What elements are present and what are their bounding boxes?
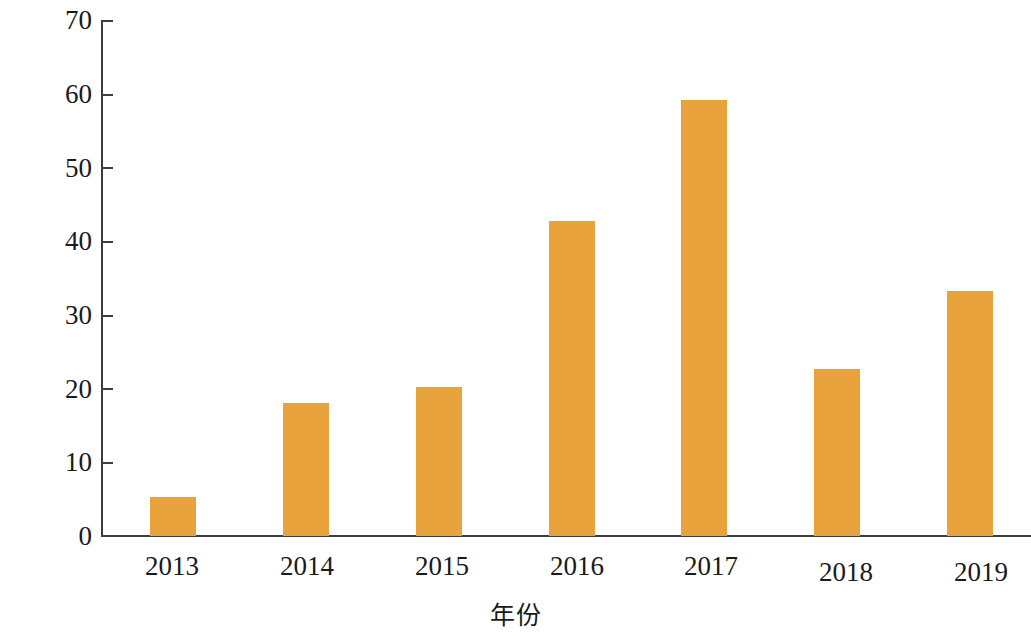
bar-2015 — [416, 387, 462, 536]
bar-chart: 比值（%） 0 10 20 30 40 50 60 70 2013 2014 2… — [0, 0, 1031, 638]
x-tick-label-2016: 2016 — [517, 551, 637, 581]
x-tick-label-2014: 2014 — [247, 551, 367, 581]
plot-area — [102, 20, 1031, 536]
y-tick-label-30: 30 — [6, 302, 92, 329]
x-tick-label-2015: 2015 — [382, 551, 502, 581]
y-axis-tick-labels: 0 10 20 30 40 50 60 70 — [0, 0, 92, 638]
bar-2018 — [814, 369, 860, 536]
y-tick-label-10: 10 — [6, 449, 92, 476]
y-tick-label-50: 50 — [6, 155, 92, 182]
x-tick-label-2013: 2013 — [112, 551, 232, 581]
y-tick-label-0: 0 — [6, 523, 92, 550]
x-tick-label-2019: 2019 — [921, 557, 1031, 587]
bar-2017 — [681, 100, 727, 536]
y-tick-label-60: 60 — [6, 81, 92, 108]
bar-2013 — [150, 497, 196, 536]
bar-2014 — [283, 403, 329, 536]
x-tick-label-2017: 2017 — [651, 551, 771, 581]
x-tick-label-2018: 2018 — [786, 557, 906, 587]
y-tick-label-70: 70 — [6, 7, 92, 34]
bar-2019 — [947, 291, 993, 536]
x-axis-title: 年份 — [0, 600, 1031, 632]
bar-2016 — [549, 221, 595, 536]
y-tick-label-40: 40 — [6, 228, 92, 255]
y-tick-label-20: 20 — [6, 376, 92, 403]
